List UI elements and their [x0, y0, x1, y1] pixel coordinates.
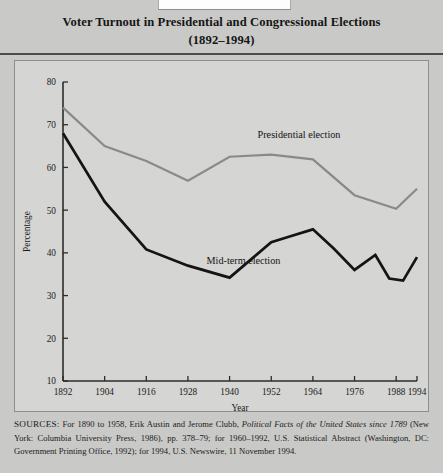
source-prefix: SOURCES:: [14, 419, 60, 429]
y-tick-label: 20: [47, 334, 57, 344]
chart-title-line-2: (1892–1994): [188, 33, 254, 47]
x-tick-label: 1928: [179, 387, 198, 397]
x-tick-label: 1994: [408, 387, 427, 397]
page-title: Voter Turnout in Presidential and Congre…: [0, 9, 443, 50]
y-tick-label: 70: [47, 120, 57, 130]
x-axis-label: Year: [231, 403, 249, 412]
x-tick-label: 1940: [220, 387, 239, 397]
y-tick-label: 50: [47, 206, 57, 216]
y-axis-label: Percentage: [22, 211, 32, 252]
x-tick-label: 1916: [137, 387, 156, 397]
y-tick-label: 40: [47, 248, 57, 258]
y-tick-label: 30: [47, 291, 57, 301]
figure-container: Voter Turnout in Presidential and Congre…: [0, 0, 443, 473]
series-annotation: Mid-term election: [207, 255, 281, 266]
line-chart: 1020304050607080189219041916192819401952…: [14, 60, 429, 412]
x-tick-label: 1952: [262, 387, 281, 397]
source-part-1: For 1890 to 1958, Erik Austin and Jerome…: [60, 419, 242, 429]
annotation-layer: Presidential electionMid-term election: [207, 129, 341, 266]
y-tick-label: 80: [47, 77, 57, 87]
x-tick-label: 1964: [304, 387, 323, 397]
x-tick-label: 1988: [387, 387, 406, 397]
series-annotation: Presidential election: [258, 129, 341, 140]
source-note: SOURCES: For 1890 to 1958, Erik Austin a…: [14, 418, 429, 458]
source-italic-title: Political Facts of the United States sin…: [242, 419, 407, 429]
y-tick-label: 60: [47, 163, 57, 173]
series-line-presidential-election: [63, 108, 417, 209]
title-band: Voter Turnout in Presidential and Congre…: [0, 9, 443, 55]
y-tick-label: 10: [47, 376, 57, 386]
x-tick-label: 1976: [345, 387, 364, 397]
x-tick-label: 1904: [95, 387, 114, 397]
x-tick-label: 1892: [54, 387, 73, 397]
axes-layer: 1020304050607080189219041916192819401952…: [22, 77, 427, 412]
chart-title-line-1: Voter Turnout in Presidential and Congre…: [62, 15, 380, 29]
